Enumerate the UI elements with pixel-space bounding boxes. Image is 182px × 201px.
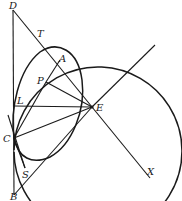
geometry-diagram: D T A P L E C S B X	[0, 0, 182, 201]
label-S: S	[22, 169, 29, 180]
label-L: L	[16, 95, 24, 106]
segment-PA	[46, 60, 60, 82]
label-T: T	[37, 28, 45, 39]
label-P: P	[36, 75, 44, 86]
segment-CP	[14, 82, 46, 138]
segment-DE	[13, 10, 92, 107]
large-circle	[14, 67, 182, 201]
segment-BE	[14, 107, 92, 195]
segment-EX	[92, 107, 150, 178]
label-C: C	[3, 133, 11, 144]
segment-DB	[13, 10, 14, 195]
label-A: A	[58, 53, 66, 64]
label-X: X	[146, 166, 155, 177]
label-B: B	[9, 191, 17, 201]
label-E: E	[95, 102, 104, 113]
label-D: D	[8, 0, 17, 11]
segment-E-upper	[92, 45, 155, 107]
segment-CE	[14, 107, 92, 138]
segment-PE	[46, 82, 92, 107]
point-E-dot	[90, 105, 93, 108]
